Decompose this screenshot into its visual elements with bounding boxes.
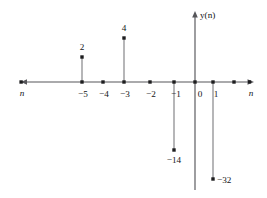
x-tick-label-minus-5: −5 xyxy=(78,89,88,99)
sample-marker-zero-left-end xyxy=(19,80,22,83)
sample-marker-base-n-minus-3 xyxy=(122,80,125,83)
y-axis-group xyxy=(192,11,198,190)
sample-marker-n-minus-2 xyxy=(148,80,151,83)
x-tick-labels-group: −5 −4 −3 −2 −1 0 1 xyxy=(78,89,219,99)
sample-marker-base-n-minus-1 xyxy=(172,80,175,83)
stem-plot-figure: n n y(n) −5 −4 −3 −2 −1 0 1 2 4 −14 −32 xyxy=(0,0,267,198)
x-tick-label-minus-3: −3 xyxy=(120,89,130,99)
sample-marker-n-3 xyxy=(248,80,251,83)
data-point-n-minus-3 xyxy=(122,36,125,39)
x-tick-label-0: 0 xyxy=(198,89,203,99)
y-axis-label: y(n) xyxy=(200,10,215,20)
data-label-n-1: −32 xyxy=(217,175,232,185)
sample-marker-base-n-1 xyxy=(211,80,214,83)
chart-canvas: n n y(n) −5 −4 −3 −2 −1 0 1 2 4 −14 −32 xyxy=(0,0,267,198)
sample-marker-n-minus-4 xyxy=(101,80,104,83)
sample-marker-n-0 xyxy=(193,80,196,83)
x-axis-group xyxy=(21,79,254,85)
sample-marker-n-2 xyxy=(232,80,235,83)
data-point-n-minus-5 xyxy=(80,55,83,58)
x-axis-label-right: n xyxy=(249,88,254,98)
x-tick-label-minus-1: −1 xyxy=(171,89,181,99)
data-point-n-minus-1 xyxy=(172,148,175,151)
data-value-labels-group: 2 4 −14 −32 xyxy=(80,23,232,185)
x-tick-label-minus-4: −4 xyxy=(99,89,109,99)
data-point-n-1 xyxy=(211,177,214,180)
sample-marker-base-n-minus-5 xyxy=(80,80,83,83)
data-label-n-minus-3: 4 xyxy=(122,23,127,33)
x-axis-label-left: n xyxy=(20,88,25,98)
stem-lines-group xyxy=(82,38,213,179)
x-tick-label-minus-2: −2 xyxy=(146,89,156,99)
y-axis-arrow-up-icon xyxy=(192,11,198,18)
data-label-n-minus-5: 2 xyxy=(80,42,85,52)
x-tick-label-1: 1 xyxy=(214,89,219,99)
data-label-n-minus-1: −14 xyxy=(167,155,182,165)
